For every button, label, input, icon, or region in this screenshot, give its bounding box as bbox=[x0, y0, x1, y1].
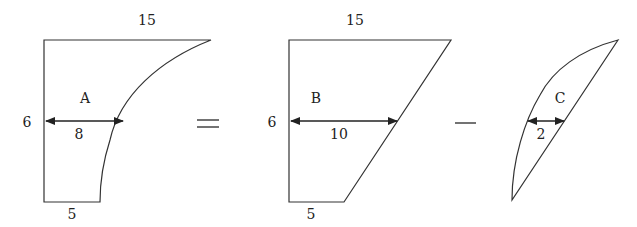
shape-a-width-label: 8 bbox=[75, 126, 84, 142]
shape-c-name-label: C bbox=[555, 90, 566, 106]
equals-sign bbox=[197, 120, 219, 127]
shape-c-outline bbox=[512, 40, 618, 200]
shape-b: 15 6 B 10 5 bbox=[268, 12, 451, 222]
shape-b-width-label: 10 bbox=[330, 126, 348, 142]
shape-b-bottom-label: 5 bbox=[307, 206, 316, 222]
shape-b-side-label: 6 bbox=[268, 114, 277, 130]
shape-c-width-label: 2 bbox=[537, 126, 546, 142]
shape-a-bottom-label: 5 bbox=[68, 206, 77, 222]
shape-a-name-label: A bbox=[79, 90, 91, 106]
shape-a-side-label: 6 bbox=[23, 114, 32, 130]
shape-b-top-label: 15 bbox=[346, 12, 364, 28]
shape-b-name-label: B bbox=[311, 90, 321, 106]
shape-c: C 2 bbox=[512, 40, 618, 200]
shape-a: 15 6 A 8 5 bbox=[23, 12, 211, 222]
area-equation-diagram: 15 6 A 8 5 15 6 B 10 5 C 2 bbox=[0, 0, 637, 227]
shape-a-top-label: 15 bbox=[138, 12, 156, 28]
